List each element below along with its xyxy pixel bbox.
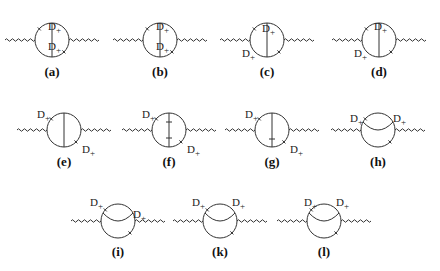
d-plus-label: D+ xyxy=(350,112,363,127)
d-plus-label: D+ xyxy=(232,196,245,211)
diagram-group: D+D+D+D+D+D+D+D+D+D+D+D+D+D+D+D+D+D+D+D+… xyxy=(5,20,426,238)
d-plus-label: D+ xyxy=(336,196,349,211)
diagram-g: D+D+ xyxy=(225,108,319,158)
caption-group: (a) (b) (c) (d) (e) (f) (g) (h) (i) (k) … xyxy=(44,64,387,259)
d-plus-label: D+ xyxy=(245,108,258,123)
internal-propagator xyxy=(205,213,235,221)
internal-propagator xyxy=(363,122,393,130)
d-plus-label: D+ xyxy=(187,143,200,158)
d-plus-label: D+ xyxy=(192,196,205,211)
caption-l: (l) xyxy=(318,244,330,259)
d-plus-label: D+ xyxy=(82,143,95,158)
diagram-c: D+D+ xyxy=(220,22,314,62)
caption-d: (d) xyxy=(371,64,387,79)
diagram-h: D+D+ xyxy=(331,112,425,147)
d-plus-label: D+ xyxy=(37,108,50,123)
d-plus-label: D+ xyxy=(374,20,387,35)
caption-k: (k) xyxy=(212,244,228,259)
d-plus-label: D+ xyxy=(156,40,169,55)
diagram-l: D+D+ xyxy=(277,196,371,238)
diagram-e: D+D+ xyxy=(17,108,111,158)
diagram-d: D+D+ xyxy=(332,20,426,62)
d-plus-label: D+ xyxy=(48,20,61,35)
diagram-b: D+D+ xyxy=(113,20,207,57)
diagram-i: D+D+ xyxy=(71,196,165,238)
d-plus-label: D+ xyxy=(90,196,103,211)
d-plus-label: D+ xyxy=(393,112,406,127)
caption-i: (i) xyxy=(112,244,124,259)
diagram-a: D+D+ xyxy=(5,20,99,57)
diagram-f: D+D+ xyxy=(122,108,216,158)
caption-g: (g) xyxy=(264,154,279,169)
d-plus-label: D+ xyxy=(48,40,61,55)
caption-b: (b) xyxy=(152,64,168,79)
d-plus-label: D+ xyxy=(156,20,169,35)
internal-propagator xyxy=(103,213,133,221)
internal-propagator xyxy=(309,213,339,221)
caption-a: (a) xyxy=(44,64,59,79)
d-plus-label: D+ xyxy=(142,108,155,123)
caption-h: (h) xyxy=(370,154,386,169)
feynman-diagram-figure: D+D+D+D+D+D+D+D+D+D+D+D+D+D+D+D+D+D+D+D+… xyxy=(0,0,440,271)
caption-e: (e) xyxy=(57,154,71,169)
caption-f: (f) xyxy=(163,154,176,169)
caption-c: (c) xyxy=(260,64,274,79)
diagram-k: D+D+ xyxy=(173,196,267,238)
d-plus-label: D+ xyxy=(290,143,303,158)
